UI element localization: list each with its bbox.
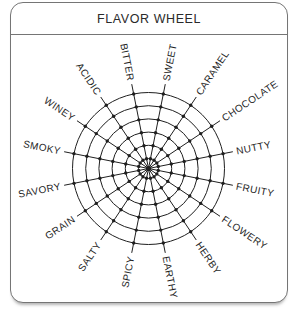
grid-dot xyxy=(117,187,120,190)
grid-dot xyxy=(208,155,211,158)
grid-dot xyxy=(84,209,87,212)
grid-dot xyxy=(145,177,148,180)
grid-dot xyxy=(210,125,213,128)
grid-dot xyxy=(128,180,131,183)
spoke-label-bitter: BITTER xyxy=(118,42,136,81)
grid-dot xyxy=(156,215,159,218)
grid-dot xyxy=(141,158,144,161)
grid-dot xyxy=(124,162,127,165)
grid-dot xyxy=(135,105,138,108)
grid-dot xyxy=(210,209,213,212)
grid-dot xyxy=(151,190,154,193)
grid-dot xyxy=(85,179,88,182)
grid-dot xyxy=(135,228,138,231)
grid-dot xyxy=(95,132,98,135)
grid-dot xyxy=(221,182,224,185)
spoke-label-fruity: FRUITY xyxy=(235,181,275,199)
grid-dot xyxy=(149,177,152,180)
grid-dot xyxy=(127,197,130,200)
grid-dot xyxy=(84,125,87,128)
grid-dot xyxy=(162,241,165,244)
grid-dot xyxy=(134,148,137,151)
grid-dot xyxy=(105,104,108,107)
grid-dot xyxy=(134,186,137,189)
grid-dot xyxy=(142,144,145,147)
grid-dot xyxy=(106,139,109,142)
grid-dot xyxy=(117,147,120,150)
grid-dot xyxy=(132,241,135,244)
grid-dot xyxy=(145,157,148,160)
grid-dot xyxy=(142,190,145,193)
grid-dot xyxy=(124,171,127,174)
grid-dot xyxy=(174,208,177,211)
grid-dot xyxy=(132,92,135,95)
grid-dot xyxy=(177,187,180,190)
grid-dot xyxy=(195,157,198,160)
grid-dot xyxy=(140,131,143,134)
grid-dot xyxy=(208,179,211,182)
grid-dot xyxy=(170,171,173,174)
grid-dot xyxy=(199,132,202,135)
grid-dot xyxy=(137,215,140,218)
grid-dot xyxy=(137,118,140,121)
grid-dot xyxy=(154,131,157,134)
grid-dot xyxy=(138,172,141,175)
spoke-label-chocolate: CHOCOLATE xyxy=(220,78,280,123)
grid-dot xyxy=(156,118,159,121)
grid-dot xyxy=(151,144,154,147)
grid-dot xyxy=(174,126,177,129)
grid-dot xyxy=(167,137,170,140)
grid-dot xyxy=(183,160,186,163)
grid-dot xyxy=(72,152,75,155)
spoke-label-winey: WINEY xyxy=(42,95,77,123)
grid-dot xyxy=(98,176,101,179)
spoke-label-salty: SALTY xyxy=(76,240,103,273)
grid-dot xyxy=(189,104,192,107)
grid-dot xyxy=(119,126,122,129)
card-body: SWEETCARAMELCHOCOLATENUTTYFRUITYFLOWERYH… xyxy=(11,35,287,302)
grid-dot xyxy=(166,180,169,183)
spoke-label-nutty: NUTTY xyxy=(235,139,272,157)
grid-dot xyxy=(152,158,155,161)
grid-dot xyxy=(111,160,114,163)
grid-dot xyxy=(166,154,169,157)
grid-dot xyxy=(137,169,140,172)
grid-dot xyxy=(138,161,141,164)
grid-dot xyxy=(137,165,140,168)
grid-dot xyxy=(160,148,163,151)
spoke-label-savory: SAVORY xyxy=(17,181,61,200)
grid-dot xyxy=(152,175,155,178)
grid-dot xyxy=(189,230,192,233)
grid-dot xyxy=(112,219,115,222)
grid-dot xyxy=(157,169,160,172)
grid-dot xyxy=(170,162,173,165)
grid-dot xyxy=(128,154,131,157)
grid-dot xyxy=(106,194,109,197)
grid-dot xyxy=(85,155,88,158)
grid-dot xyxy=(105,230,108,233)
grid-dot xyxy=(159,105,162,108)
grid-dot xyxy=(149,157,152,160)
grid-dot xyxy=(141,175,144,178)
spoke-label-sweet: SWEET xyxy=(161,43,179,82)
spoke-label-flowery: FLOWERY xyxy=(220,214,269,252)
grid-dot xyxy=(111,174,114,177)
grid-dot xyxy=(127,137,130,140)
grid-dot xyxy=(154,203,157,206)
grid-dot xyxy=(221,152,224,155)
grid-dot xyxy=(119,208,122,211)
grid-dot xyxy=(177,147,180,150)
grid-dot xyxy=(95,202,98,205)
grid-dot xyxy=(72,182,75,185)
grid-dot xyxy=(112,115,115,118)
flavor-wheel-card: FLAVOR WHEEL SWEETCARAMELCHOCOLATENUTTYF… xyxy=(10,2,288,303)
grid-dot xyxy=(140,203,143,206)
grid-dot xyxy=(98,157,101,160)
grid-dot xyxy=(188,139,191,142)
spoke-label-smoky: SMOKY xyxy=(22,138,62,156)
grid-dot xyxy=(162,92,165,95)
grid-dot xyxy=(182,219,185,222)
spoke-label-spicy: SPICY xyxy=(119,255,136,289)
grid-dot xyxy=(195,176,198,179)
grid-dot xyxy=(188,194,191,197)
